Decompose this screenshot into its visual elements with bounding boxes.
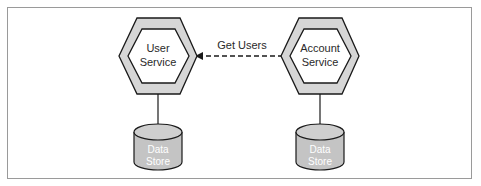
database-top-icon — [296, 124, 344, 140]
db-label-line-1: Data — [309, 144, 331, 155]
node-label-line-2: Service — [140, 56, 177, 68]
db-label-line-2: Store — [146, 156, 170, 167]
edge-label-get-users: Get Users — [217, 39, 267, 51]
node-label-line-2: Service — [302, 56, 339, 68]
database-top-icon — [134, 124, 182, 140]
node-user-data-store[interactable]: Data Store — [134, 124, 182, 170]
node-label-line-1: User — [146, 42, 170, 54]
db-label-line-2: Store — [308, 156, 332, 167]
edge-get-users: Get Users — [195, 39, 283, 60]
node-label-line-1: Account — [300, 42, 340, 54]
db-label-line-1: Data — [147, 144, 169, 155]
node-account-service[interactable]: Account Service — [281, 18, 359, 94]
node-user-service[interactable]: User Service — [119, 18, 197, 94]
node-account-data-store[interactable]: Data Store — [296, 124, 344, 170]
architecture-diagram: Get Users User Service Account Service D… — [0, 0, 481, 186]
